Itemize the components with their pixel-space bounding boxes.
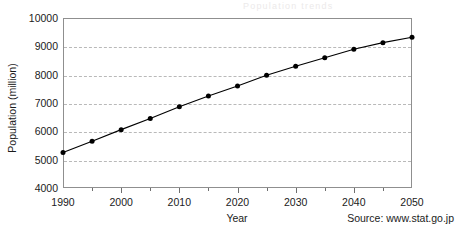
x-tick-mark-2020 [238,188,239,193]
x-tick-label-2050: 2050 [382,196,442,208]
x-axis-title: Year [182,212,292,224]
x-tick-mark-2015 [208,188,209,191]
y-tick-label-7000: 7000 [12,98,58,109]
source-note: Source: www.stat.go.jp [347,212,454,224]
plot-area [63,18,412,188]
scan-artifact-text: Population trends [243,1,393,12]
y-tick-label-8000: 8000 [12,70,58,81]
x-tick-label-1990: 1990 [33,196,93,208]
y-tick-label-9000: 9000 [12,41,58,52]
x-tick-mark-2025 [267,188,268,191]
y-tick-label-5000: 5000 [12,155,58,166]
x-tick-mark-2010 [179,188,180,193]
x-tick-mark-2040 [354,188,355,193]
gridline-7000 [64,104,411,105]
x-tick-mark-2000 [121,188,122,193]
x-tick-mark-1995 [92,188,93,191]
gridline-9000 [64,47,411,48]
gridline-5000 [64,161,411,162]
x-tick-label-2020: 2020 [208,196,268,208]
x-tick-mark-2045 [383,188,384,191]
x-tick-label-2000: 2000 [91,196,151,208]
x-tick-mark-2005 [150,188,151,191]
x-tick-label-2030: 2030 [266,196,326,208]
gridline-6000 [64,132,411,133]
y-tick-label-4000: 4000 [12,183,58,194]
x-tick-mark-2035 [325,188,326,191]
y-tick-label-10000: 10000 [12,13,58,24]
x-tick-label-2040: 2040 [324,196,384,208]
gridline-8000 [64,76,411,77]
x-tick-label-2010: 2010 [149,196,209,208]
y-tick-label-6000: 6000 [12,126,58,137]
x-tick-mark-2030 [296,188,297,193]
chart-figure: Population trends Population (million) 1… [0,0,462,235]
